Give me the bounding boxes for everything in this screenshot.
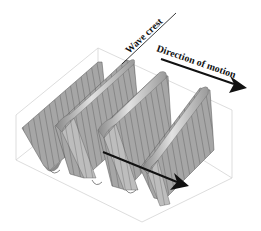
wave-diagram: Wave crest Direction of motion xyxy=(0,0,261,231)
